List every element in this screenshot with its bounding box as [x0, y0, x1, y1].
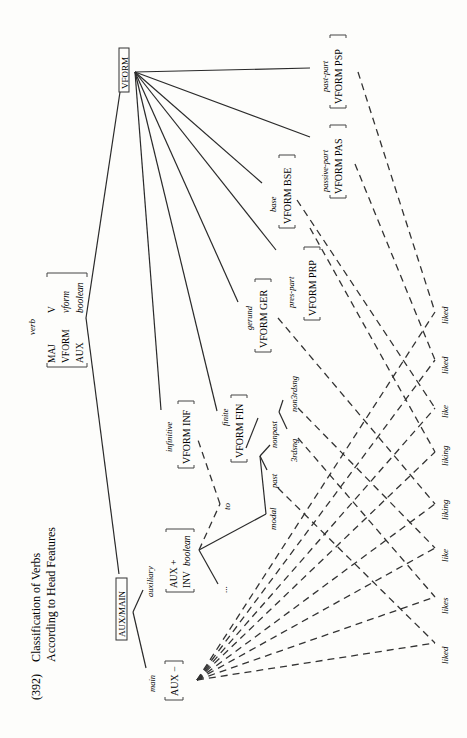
figure-caption: (392) Classification of Verbs According …: [29, 527, 58, 700]
root-type: verb: [27, 319, 37, 335]
inv-value: boolean: [182, 535, 192, 566]
to-label: to: [222, 502, 232, 510]
non3rdsng-label: non3rdsng: [289, 376, 299, 412]
gerund-avm: VFORM GER: [255, 279, 271, 352]
ellipsis-label: ...: [219, 586, 229, 593]
avm-feature-aux: AUX: [75, 342, 85, 363]
edge-ellipsis: [199, 550, 218, 584]
bracket-right: [231, 395, 247, 398]
passive-part-avm: VFORM PAS: [330, 125, 346, 198]
dash-past-liked: [278, 488, 435, 643]
leaf-word: liked: [440, 356, 450, 374]
auxiliary-label: auxiliary: [145, 566, 155, 597]
base-label: base: [268, 196, 278, 212]
avm-feature-maj: MAJ: [47, 344, 57, 363]
aux-plus-text: AUX +: [169, 560, 179, 588]
bracket-left: [330, 105, 346, 108]
bracket-right: [330, 125, 346, 128]
finite-label: finite: [220, 408, 230, 426]
vform-prp-text: VFORM PRP: [307, 260, 318, 316]
vform-psp-text: VFORM PSP: [333, 49, 344, 104]
bracket-right: [165, 661, 183, 664]
past-label: past: [269, 473, 279, 489]
inv-feature: INV: [182, 571, 192, 588]
base-avm: VFORM BSE: [279, 155, 295, 228]
edge-root-vform: [86, 92, 120, 318]
edge-finite-from-vform-end: [246, 418, 258, 448]
avm-right-bracket: [47, 273, 87, 277]
leaf-word: liked: [440, 306, 450, 324]
bracket-left: [255, 349, 271, 352]
dash-aux-to: [199, 504, 220, 550]
dash-non3rdsng-like: [298, 408, 435, 548]
leaf-edges: [197, 72, 435, 680]
figure-title-line2: According to Head Features: [44, 527, 58, 662]
infinitive-label: infinitive: [164, 422, 174, 452]
auxmain-partition-label: AUX/MAIN: [117, 591, 127, 637]
nonpast-label: nonpast: [269, 420, 279, 448]
dash-prp-liking: [310, 228, 435, 452]
aux-minus-text: AUX −: [169, 666, 180, 696]
bracket-right: [166, 529, 194, 532]
root-avm: verb MAJ V VFORM vform AUX boolean: [27, 273, 87, 367]
infinitive-avm: VFORM INF: [178, 401, 194, 468]
dash-psp-liked: [358, 72, 435, 312]
avm-feature-vform: VFORM: [61, 329, 71, 363]
gerund-label: gerund: [244, 305, 254, 330]
edge-main: [133, 612, 146, 668]
past-part-avm: VFORM PSP: [330, 35, 346, 108]
vform-pas-text: VFORM PAS: [333, 139, 344, 195]
leaf-word: like: [440, 549, 450, 562]
pres-part-avm: VFORM PRP: [304, 247, 320, 320]
avm-value-vform: vform: [61, 291, 71, 313]
bracket-right: [178, 401, 194, 404]
modal-label: modal: [268, 507, 278, 530]
edge-non3rdsng: [279, 400, 283, 412]
passive-part-label: passive-part: [320, 149, 330, 193]
edge-root-auxmain: [86, 318, 119, 574]
leaf-word: likes: [440, 597, 450, 614]
edge-past-part: [135, 68, 310, 72]
3rdsng-label: 3rdsng: [289, 439, 299, 463]
aux-minus-avm: AUX −: [165, 661, 183, 700]
edge-3rdsng: [279, 412, 287, 429]
avm-value-maj: V: [47, 306, 57, 313]
edge-modal: [199, 514, 266, 550]
pres-part-label: pres-part: [286, 276, 296, 309]
dash-main-liking2: [197, 452, 435, 680]
dash-main-liked2: [197, 360, 435, 680]
bracket-left: [330, 195, 346, 198]
dash-main-liked1: [197, 643, 435, 680]
verb-classification-diagram: (392) Classification of Verbs According …: [0, 0, 467, 738]
vform-partition-label: VFORM: [120, 57, 130, 89]
finite-avm: VFORM FIN: [231, 395, 247, 462]
dash-main-like2: [197, 408, 435, 680]
past-part-label: past-part: [320, 60, 330, 93]
bracket-right: [255, 279, 271, 282]
bracket-left: [279, 225, 295, 228]
edge-auxiliary: [133, 590, 143, 612]
avm-value-aux: boolean: [75, 282, 85, 313]
leaf-word: like: [440, 405, 450, 418]
bracket-left: [304, 317, 320, 320]
dash-main-liked3: [197, 312, 435, 680]
edge-modal-from-finite: [260, 456, 266, 514]
leaf-word: liked: [440, 646, 450, 664]
dash-pas-liked: [355, 164, 435, 360]
vform-fin-text: VFORM FIN: [234, 404, 245, 458]
bracket-right: [304, 247, 320, 250]
leaf-word: liking: [440, 499, 450, 520]
dash-to-inf: [198, 440, 220, 504]
bracket-left: [178, 465, 194, 468]
leaf-word: liking: [440, 445, 450, 466]
auxiliary-avm: AUX + INV boolean: [166, 529, 194, 592]
leaf-words: liked likes like liking liking like like…: [440, 306, 450, 664]
bracket-left: [166, 589, 194, 592]
figure-number: (392): [29, 674, 43, 700]
bracket-left: [231, 459, 247, 462]
vform-bse-text: VFORM BSE: [282, 168, 293, 224]
dash-main-liking1: [197, 504, 435, 680]
main-label: main: [147, 675, 157, 692]
bracket-right: [330, 35, 346, 38]
edge-base: [135, 72, 262, 183]
